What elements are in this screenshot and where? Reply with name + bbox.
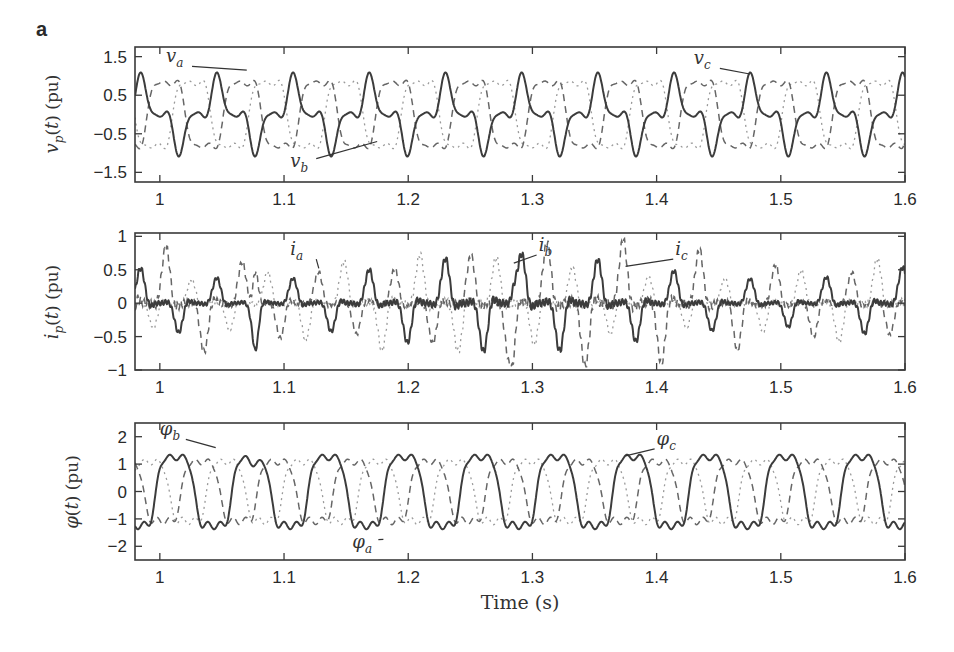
voltage-ylabel: vp(t) (pu) xyxy=(41,75,66,154)
y-tick-label: 0.5 xyxy=(103,261,127,280)
x-tick-label: 1.6 xyxy=(893,568,917,587)
series-ib-line xyxy=(135,253,905,353)
voltage-panel: 11.11.21.31.41.51.61.50.5−0.5−1.5 vavbvc… xyxy=(41,45,917,209)
current-series xyxy=(135,239,905,367)
current-annotations: iaibic xyxy=(290,234,688,268)
flux-panel: 11.11.21.31.41.51.6210−1−2 φbφaφc φ(t) (… xyxy=(61,418,917,587)
y-tick-label: 0 xyxy=(118,294,127,313)
y-tick-label: −0.5 xyxy=(93,125,127,144)
y-tick-label: 0.5 xyxy=(103,86,127,105)
voltage-ticks: 11.11.21.31.41.51.61.50.5−0.5−1.5 xyxy=(93,47,916,209)
flux-ylabel: φ(t) (pu) xyxy=(61,455,82,529)
x-tick-label: 1.1 xyxy=(272,568,296,587)
x-tick-label: 1.3 xyxy=(521,378,545,397)
x-tick-label: 1.5 xyxy=(769,568,793,587)
y-tick-label: −1.5 xyxy=(93,163,127,182)
series-b-line xyxy=(135,455,905,530)
voltage-series xyxy=(135,72,905,156)
y-tick-label: −0.5 xyxy=(93,328,127,347)
figure: a 11.11.21.31.41.51.61.50.5−0.5−1.5 vavb… xyxy=(0,0,954,652)
series-annotation: φb xyxy=(160,418,180,443)
x-tick-label: 1.1 xyxy=(272,378,296,397)
x-tick-label: 1.1 xyxy=(272,190,296,209)
annotation-leader-line xyxy=(720,68,750,74)
current-panel: 11.11.21.31.41.51.610.50−0.5−1 iaibic ip… xyxy=(41,227,917,397)
x-tick-label: 1.6 xyxy=(893,190,917,209)
panel-letter: a xyxy=(36,18,48,40)
flux-ticks: 11.11.21.31.41.51.6210−1−2 xyxy=(108,423,917,587)
x-tick-label: 1.5 xyxy=(769,190,793,209)
series-a-line xyxy=(135,459,905,525)
x-tick-label: 1.3 xyxy=(521,568,545,587)
y-tick-label: 1 xyxy=(118,455,127,474)
series-annotation: φa xyxy=(352,531,372,556)
y-tick-label: −1 xyxy=(108,361,127,380)
annotation-leader-line xyxy=(514,255,537,263)
flux-axes-frame xyxy=(135,423,905,560)
x-tick-label: 1.4 xyxy=(645,378,669,397)
x-tick-label: 1.2 xyxy=(396,568,420,587)
x-tick-label: 1 xyxy=(155,190,164,209)
x-tick-label: 1 xyxy=(155,378,164,397)
x-tick-label: 1.5 xyxy=(769,378,793,397)
y-tick-label: 2 xyxy=(118,428,127,447)
series-annotation: φc xyxy=(657,428,677,453)
y-tick-label: 1.5 xyxy=(103,48,127,67)
x-tick-label: 1.2 xyxy=(396,190,420,209)
series-c-line xyxy=(135,459,905,525)
series-annotation: ic xyxy=(675,238,688,263)
series-annotation: ib xyxy=(539,234,552,259)
annotation-leader-line xyxy=(316,259,319,268)
flux-series xyxy=(135,455,905,530)
x-tick-label: 1.4 xyxy=(645,190,669,209)
y-tick-label: −2 xyxy=(108,537,127,556)
x-tick-label: 1.6 xyxy=(893,378,917,397)
annotation-leader-line xyxy=(626,259,674,266)
series-annotation: ia xyxy=(290,238,303,263)
x-tick-label: 1.4 xyxy=(645,568,669,587)
series-annotation: vc xyxy=(694,47,711,72)
y-tick-label: −1 xyxy=(108,510,127,529)
x-tick-label: 1.3 xyxy=(521,190,545,209)
y-tick-label: 0 xyxy=(118,483,127,502)
series-annotation: vb xyxy=(290,150,308,175)
annotation-leader-line xyxy=(186,439,216,447)
x-tick-label: 1.2 xyxy=(396,378,420,397)
series-annotation: va xyxy=(166,45,183,70)
voltage-axes-frame xyxy=(135,47,905,182)
current-ylabel: ip(t) (pu) xyxy=(41,265,66,339)
annotation-leader-line xyxy=(192,66,247,70)
flux-annotations: φbφaφc xyxy=(160,418,676,555)
x-axis-label: Time (s) xyxy=(481,591,560,613)
y-tick-label: 1 xyxy=(118,227,127,246)
x-tick-label: 1 xyxy=(155,568,164,587)
